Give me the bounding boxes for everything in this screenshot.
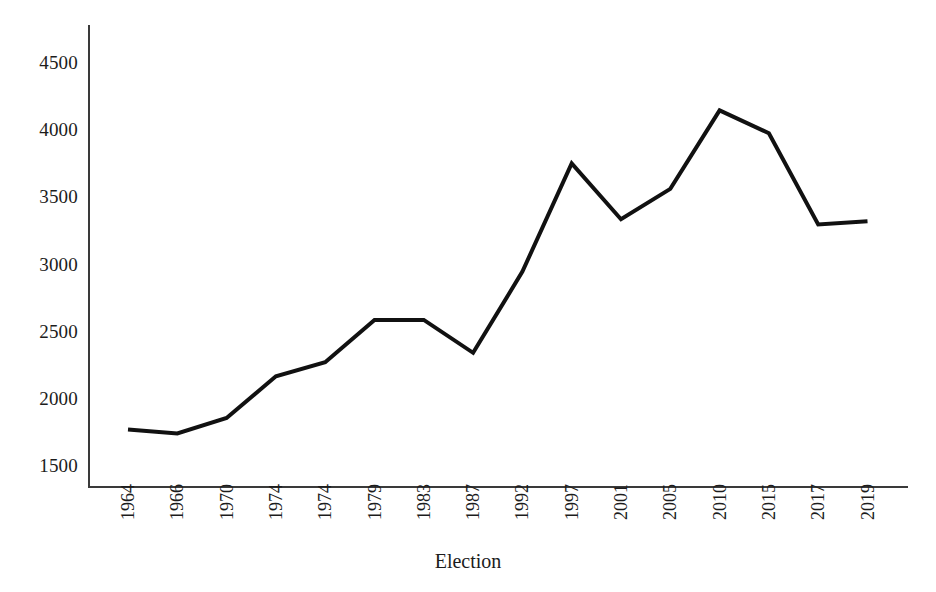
line-chart: 1500200025003000350040004500 19641966197… — [0, 0, 936, 592]
x-axis-title: Election — [0, 549, 936, 573]
series-line-election — [128, 110, 868, 433]
plot-area — [0, 0, 936, 592]
